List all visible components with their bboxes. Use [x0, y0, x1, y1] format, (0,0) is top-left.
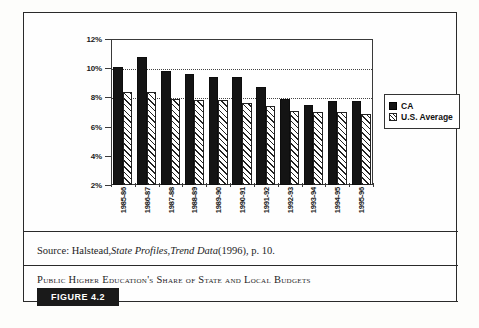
bar-group	[278, 39, 302, 185]
x-axis-tick	[159, 183, 160, 187]
bar-group	[302, 39, 326, 185]
legend-item-ca: CA	[389, 101, 453, 111]
x-axis-label: 1991-92	[262, 187, 271, 213]
figure-badge: FIGURE 4.2	[37, 288, 119, 306]
x-axis-tick	[206, 183, 207, 187]
bar-group	[182, 39, 206, 185]
x-axis-label: 1992-93	[286, 187, 295, 213]
bar-group	[254, 39, 278, 185]
bar-group	[349, 39, 373, 185]
x-axis-tick	[254, 183, 255, 187]
figure-frame: 2%4%6%8%10%12% 1985-861986-871987-881988…	[23, 12, 457, 302]
source-italic-state-profiles: State Profiles	[111, 245, 167, 256]
bar-group	[159, 39, 183, 185]
x-axis-label: 1986-87	[143, 187, 152, 213]
x-axis-tick	[278, 183, 279, 187]
bar-group	[206, 39, 230, 185]
bar-ca	[280, 99, 290, 185]
chart-legend: CA U.S. Average	[384, 94, 460, 129]
x-axis-label: 1985-86	[119, 187, 128, 213]
y-axis-label: 8%	[91, 93, 102, 102]
chart-region: 2%4%6%8%10%12% 1985-861986-871987-881988…	[24, 13, 458, 231]
bar-group	[230, 39, 254, 185]
bar-ca	[352, 101, 362, 185]
y-axis-label: 12%	[87, 35, 102, 44]
x-axis-tick	[111, 183, 112, 187]
x-axis-tick	[349, 183, 350, 187]
bar-us-average	[290, 111, 300, 185]
bar-ca	[256, 87, 266, 185]
x-axis-label: 1990-91	[238, 187, 247, 213]
x-axis-label: 1987-88	[167, 187, 176, 213]
bar-ca	[185, 74, 195, 185]
x-axis-tick	[135, 183, 136, 187]
bar-ca	[113, 67, 123, 185]
y-axis-label: 6%	[91, 122, 102, 131]
x-axis-tick	[325, 183, 326, 187]
bar-ca	[232, 77, 242, 185]
bar-us-average	[242, 103, 252, 185]
legend-label-us-average: U.S. Average	[401, 112, 453, 122]
bar-us-average	[361, 114, 371, 185]
bar-us-average	[337, 112, 347, 185]
bar-ca	[209, 77, 219, 185]
y-axis-label: 4%	[91, 151, 102, 160]
x-axis-label: 1989-90	[214, 187, 223, 213]
source-italic-trend-data: Trend Data	[170, 245, 218, 256]
bar-ca	[328, 101, 338, 185]
figure-page: 2%4%6%8%10%12% 1985-861986-871987-881988…	[0, 0, 479, 328]
legend-swatch-us-average	[389, 113, 397, 121]
bar-ca	[137, 57, 147, 185]
bar-us-average	[147, 92, 157, 185]
x-axis-label: 1988-89	[190, 187, 199, 213]
bars-layer	[111, 39, 373, 185]
bar-us-average	[123, 92, 133, 185]
x-axis-label: 1995-96	[357, 187, 366, 213]
source-suffix: (1996), p. 10.	[218, 245, 275, 256]
bar-ca	[161, 71, 171, 185]
source-line: Source: Halstead, State Profiles, Trend …	[37, 235, 447, 265]
y-axis-label: 10%	[87, 64, 102, 73]
y-axis: 2%4%6%8%10%12%	[64, 39, 111, 185]
x-axis-tick	[302, 183, 303, 187]
bar-us-average	[266, 106, 276, 185]
legend-item-us-average: U.S. Average	[389, 112, 453, 122]
x-axis-tick	[373, 183, 374, 187]
x-axis: 1985-861986-871987-881988-891989-901990-…	[111, 187, 373, 229]
y-axis-label: 2%	[91, 181, 102, 190]
bar-us-average	[313, 112, 323, 185]
divider-above-source	[24, 231, 458, 232]
source-prefix: Source: Halstead,	[37, 245, 111, 256]
x-axis-tick	[230, 183, 231, 187]
bar-group	[135, 39, 159, 185]
legend-swatch-ca	[389, 102, 397, 110]
bar-us-average	[194, 100, 204, 185]
bar-group	[325, 39, 349, 185]
bar-group	[111, 39, 135, 185]
x-axis-label: 1994-95	[333, 187, 342, 213]
x-axis-tick	[182, 183, 183, 187]
bar-ca	[304, 105, 314, 185]
bar-us-average	[171, 99, 181, 185]
bar-us-average	[218, 100, 228, 185]
legend-label-ca: CA	[401, 101, 413, 111]
x-axis-label: 1993-94	[309, 187, 318, 213]
